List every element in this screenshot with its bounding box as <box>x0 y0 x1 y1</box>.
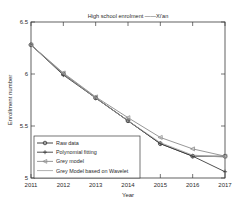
y-axis-title: Enrollment number <box>7 75 13 126</box>
legend-label: Grey Model based on Wavelet <box>56 168 129 174</box>
x-tick-label: 2011 <box>25 182 39 188</box>
y-tick-label: 6.5 <box>20 19 29 25</box>
legend-label: Raw data <box>56 140 79 146</box>
legend-label: Grey model <box>56 158 84 164</box>
y-tick-label: 5 <box>25 175 29 181</box>
x-tick-label: 2015 <box>154 182 168 188</box>
chart-figure: 55.566.5 2011201220132014201520162017 Hi… <box>0 0 243 203</box>
chart-canvas: 55.566.5 2011201220132014201520162017 Hi… <box>0 0 243 203</box>
x-tick-label: 2016 <box>186 182 200 188</box>
chart-legend: Raw dataPolynomial fittingGrey modelGrey… <box>34 136 140 178</box>
x-tick-label: 2012 <box>57 182 71 188</box>
x-tick-label: 2014 <box>121 182 135 188</box>
y-tick-label: 6 <box>25 71 29 77</box>
x-tick-label: 2017 <box>218 182 232 188</box>
chart-title: High school enrolment ——Xi'an <box>88 13 169 19</box>
x-axis-title: Year <box>122 192 134 198</box>
x-tick-label: 2013 <box>89 182 103 188</box>
legend-label: Polynomial fitting <box>56 149 97 155</box>
y-tick-label: 5.5 <box>20 123 29 129</box>
